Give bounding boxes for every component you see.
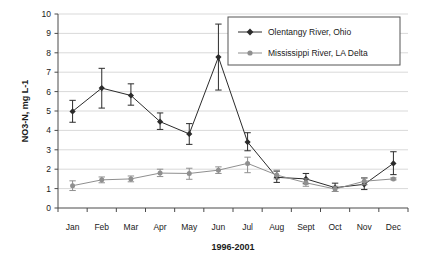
x-tick-label-jan: Jan: [66, 222, 80, 232]
legend-label-olentangy: Olentangy River, Ohio: [268, 27, 351, 37]
y-axis-ticks: 012345678910: [42, 9, 58, 213]
x-tick-label-aug: Aug: [269, 222, 284, 232]
data-point-marker[interactable]: [333, 186, 338, 191]
y-tick-label: 4: [46, 125, 51, 135]
x-tick-label-oct: Oct: [328, 222, 342, 232]
y-tick-label: 6: [46, 87, 51, 97]
data-point-marker[interactable]: [245, 161, 250, 166]
y-tick-label: 2: [46, 164, 51, 174]
x-tick-label-jul: Jul: [242, 222, 253, 232]
data-point-marker[interactable]: [216, 168, 221, 173]
y-tick-label: 1: [46, 184, 51, 194]
data-point-marker[interactable]: [158, 171, 163, 176]
x-tick-label-mar: Mar: [124, 222, 139, 232]
x-tick-label-apr: Apr: [153, 222, 166, 232]
x-tick-label-feb: Feb: [94, 222, 109, 232]
y-axis-title: NO3-N, mg L-1: [20, 80, 30, 143]
y-tick-label: 8: [46, 48, 51, 58]
x-tick-label-sept: Sept: [297, 222, 315, 232]
data-point-marker[interactable]: [274, 173, 279, 178]
y-tick-label: 3: [46, 145, 51, 155]
x-axis-ticks: JanFebMarAprMayJunJulAugSeptOctNovDec: [58, 208, 408, 232]
y-tick-label: 10: [42, 9, 52, 19]
nitrate-line-chart: 012345678910 JanFebMarAprMayJunJulAugSep…: [0, 0, 429, 266]
y-tick-label: 5: [46, 106, 51, 116]
data-point-marker[interactable]: [99, 177, 104, 182]
data-point-marker[interactable]: [303, 180, 308, 185]
x-tick-label-may: May: [181, 222, 198, 232]
y-tick-label: 9: [46, 28, 51, 38]
chart-container: 012345678910 JanFebMarAprMayJunJulAugSep…: [0, 0, 429, 266]
data-point-marker[interactable]: [128, 176, 133, 181]
y-tick-label: 0: [46, 203, 51, 213]
circle-marker-icon: [247, 50, 252, 55]
x-axis-title: 1996-2001: [211, 242, 254, 252]
y-tick-label: 7: [46, 67, 51, 77]
chart-legend: Olentangy River, Ohio Mississippi River,…: [228, 17, 400, 65]
data-point-marker[interactable]: [362, 179, 367, 184]
data-point-marker[interactable]: [391, 176, 396, 181]
x-tick-label-dec: Dec: [386, 222, 402, 232]
x-tick-label-nov: Nov: [357, 222, 373, 232]
x-tick-label-jun: Jun: [212, 222, 226, 232]
legend-label-mississippi: Mississippi River, LA Delta: [268, 48, 368, 58]
data-point-marker[interactable]: [187, 171, 192, 176]
data-point-marker[interactable]: [70, 183, 75, 188]
